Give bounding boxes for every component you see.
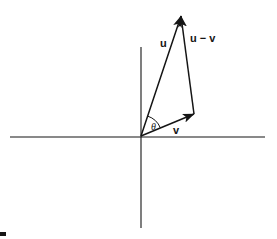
vector-v-arrow [141, 114, 194, 136]
angle-theta-label: θ [151, 121, 156, 132]
vector-u-label: u [160, 37, 167, 49]
vector-u-minus-v-arrow [181, 16, 194, 114]
vector-diagram-figure: u v u − v θ [0, 0, 277, 239]
vector-diagram-canvas: u v u − v θ [0, 0, 277, 239]
page-corner-mark [0, 232, 6, 236]
vector-u-minus-v-label: u − v [190, 32, 216, 44]
vector-v-label: v [173, 124, 180, 136]
vector-u-arrow [141, 16, 181, 136]
